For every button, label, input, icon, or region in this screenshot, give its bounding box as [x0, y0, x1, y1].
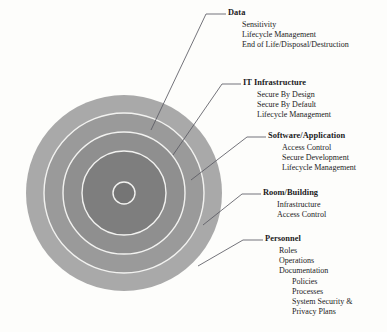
layer-label-software-application: Software/Application Access Control Secu… [268, 131, 356, 174]
layer-label-data: Data Sensitivity Lifecycle Management En… [228, 8, 349, 51]
layer-subitem: System Security & [265, 297, 352, 307]
layer-item: Operations [265, 256, 352, 266]
layer-item: Access Control [263, 210, 326, 220]
layer-title-software-application: Software/Application [268, 131, 356, 142]
ring-bands [26, 95, 222, 291]
layer-item: End of Life/Disposal/Destruction [228, 40, 349, 50]
layer-item: Lifecycle Management [228, 30, 349, 40]
layer-items-room-building: Infrastructure Access Control [263, 200, 326, 220]
layer-title-personnel: Personnel [265, 234, 352, 245]
layer-item: Sensitivity [228, 20, 349, 30]
layer-title-data: Data [228, 8, 349, 19]
layer-item: Documentation [265, 266, 352, 276]
layer-items-software-application: Access Control Secure Development Lifecy… [268, 143, 356, 174]
layer-title-room-building: Room/Building [263, 188, 326, 199]
layer-items-personnel: Roles Operations Documentation Policies … [265, 246, 352, 317]
leader-line-personnel [198, 240, 263, 266]
layer-item: Lifecycle Management [268, 163, 356, 173]
layer-item: Infrastructure [263, 200, 326, 210]
layer-subitem: Privacy Plans [265, 307, 352, 317]
layer-items-data: Sensitivity Lifecycle Management End of … [228, 20, 349, 51]
layer-item: Secure By Design [243, 90, 331, 100]
layer-subitem: Policies [265, 277, 352, 287]
layer-item: Lifecycle Management [243, 110, 331, 120]
layer-item: Secure Development [268, 153, 356, 163]
layer-title-it-infrastructure: IT Infrastructure [243, 78, 331, 89]
layer-label-it-infrastructure: IT Infrastructure Secure By Design Secur… [243, 78, 331, 121]
layer-item: Roles [265, 246, 352, 256]
layer-items-it-infrastructure: Secure By Design Secure By Default Lifec… [243, 90, 331, 121]
layer-label-personnel: Personnel Roles Operations Documentation… [265, 234, 352, 317]
layer-item: Access Control [268, 143, 356, 153]
concentric-security-layers-diagram: Data Sensitivity Lifecycle Management En… [0, 0, 387, 332]
layer-subitem: Processes [265, 287, 352, 297]
layer-label-room-building: Room/Building Infrastructure Access Cont… [263, 188, 326, 220]
layer-item: Secure By Default [243, 100, 331, 110]
